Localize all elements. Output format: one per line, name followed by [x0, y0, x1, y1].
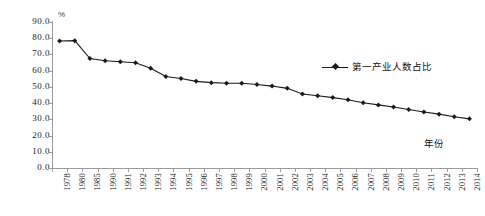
series-plot	[0, 0, 485, 216]
series-line	[60, 41, 470, 119]
series-point	[406, 107, 411, 112]
series-point	[148, 66, 153, 71]
series-point	[452, 114, 457, 119]
series-point	[103, 58, 108, 63]
series-point	[345, 97, 350, 102]
series-point	[421, 110, 426, 115]
legend-item-label: 第一产业人数占比	[352, 62, 432, 72]
x-axis-title: 年份	[424, 139, 444, 149]
series-point	[467, 116, 472, 121]
series-point	[391, 105, 396, 110]
series-point	[437, 112, 442, 117]
series-point	[330, 95, 335, 100]
series-point	[163, 74, 168, 79]
series-point	[209, 80, 214, 85]
series-point	[300, 92, 305, 97]
series-point	[57, 38, 62, 43]
series-point	[133, 60, 138, 65]
series-point	[224, 81, 229, 86]
legend-marker-icon	[322, 62, 348, 72]
line-chart: % 0.010.020.030.040.050.060.070.080.090.…	[0, 0, 485, 216]
series-point	[270, 84, 275, 89]
series-point	[315, 93, 320, 98]
series-point	[118, 59, 123, 64]
series-point	[179, 76, 184, 81]
chart-legend: 第一产业人数占比	[322, 62, 432, 72]
series-point	[376, 102, 381, 107]
series-point	[254, 82, 259, 87]
series-point	[194, 79, 199, 84]
series-point	[239, 81, 244, 86]
series-point	[361, 100, 366, 105]
series-point	[285, 86, 290, 91]
